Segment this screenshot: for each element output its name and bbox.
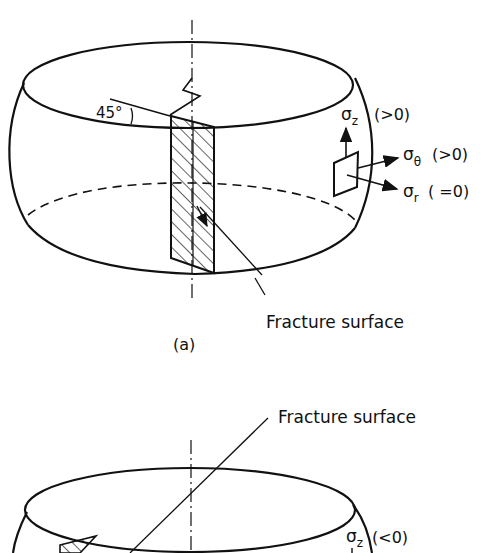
- sigma-r-cond: ( =0): [428, 182, 469, 201]
- panel-a-caption: (a): [173, 335, 195, 354]
- stress-element: [334, 152, 358, 196]
- top-ellipse-a: [23, 42, 353, 128]
- zigzag-icon: [170, 78, 200, 115]
- left-wall-b: [13, 512, 27, 553]
- top-ellipse-b: [25, 468, 355, 552]
- fracture-label-b: Fracture surface: [278, 407, 416, 427]
- sigma-theta-arrow: [358, 158, 398, 168]
- sigma-theta-label: σθ: [403, 144, 421, 169]
- panel-a: [9, 20, 398, 300]
- sigma-z-label-b: σz: [346, 526, 363, 550]
- fracture-diagram: 45° σz (>0) σθ (>0) σr ( =0) Fracture su…: [0, 0, 490, 553]
- sigma-z-cond-b: (<0): [372, 528, 408, 547]
- sigma-z-label-a: σz: [341, 104, 358, 128]
- sigma-z-cond-a: (>0): [374, 105, 410, 124]
- angle-label: 45°: [96, 104, 123, 122]
- fracture-label-a: Fracture surface: [266, 312, 404, 332]
- sigma-theta-cond: (>0): [432, 145, 468, 164]
- leader-line-b: [130, 418, 268, 553]
- left-wall-a: [9, 83, 28, 225]
- sigma-r-arrow: [347, 175, 397, 189]
- sigma-r-label: σr: [403, 181, 419, 205]
- panel-b: [13, 418, 372, 553]
